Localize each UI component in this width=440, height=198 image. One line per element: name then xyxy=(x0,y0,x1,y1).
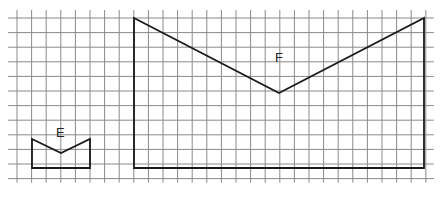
grid-lines xyxy=(8,10,434,183)
shape-f-label: F xyxy=(275,50,283,65)
shape-e-label: E xyxy=(56,125,65,140)
grid-diagram xyxy=(0,0,440,198)
